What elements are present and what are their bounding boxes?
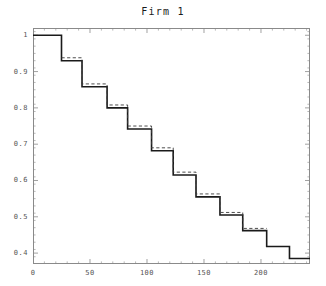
plot-area	[33, 28, 310, 264]
plot-canvas	[33, 28, 310, 264]
y-tick-label: 0.5	[2, 213, 28, 221]
series-empirical-step	[33, 35, 310, 258]
y-tick-label: 1	[2, 31, 28, 39]
x-tick-label: 0	[18, 269, 48, 277]
x-tick-label: 200	[246, 269, 276, 277]
x-tick-label: 150	[189, 269, 219, 277]
y-tick-label: 0.4	[2, 249, 28, 257]
y-tick-label: 0.7	[2, 140, 28, 148]
series-fitted-dashed	[62, 58, 267, 229]
y-tick-label: 0.9	[2, 68, 28, 76]
x-tick-label: 100	[132, 269, 162, 277]
chart-title: Firm 1	[0, 6, 326, 17]
y-tick-label: 0.8	[2, 104, 28, 112]
x-tick-label: 50	[75, 269, 105, 277]
y-tick-label: 0.6	[2, 176, 28, 184]
chart-root: Firm 1 0.40.50.60.70.80.91 050100150200	[0, 0, 326, 286]
